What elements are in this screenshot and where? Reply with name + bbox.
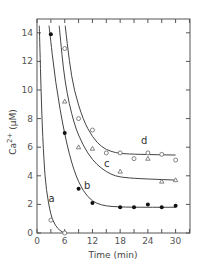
data-points [49,32,178,235]
data-point-c [90,146,94,150]
data-point-d [90,128,94,132]
calcium-time-chart: 061218243002468101214 abcd Time (min) Ca… [0,0,198,267]
y-tick-label: 6 [27,142,33,152]
svg-text:Ca2+(μM): Ca2+(μM) [6,109,18,155]
data-point-b [49,32,53,36]
x-tick-label: 30 [170,236,182,246]
curve-label-c: c [104,158,110,169]
data-point-c [118,169,122,173]
data-point-d [118,151,122,155]
y-tick-label: 4 [27,171,33,181]
data-point-b [174,204,178,208]
data-point-d [160,152,164,156]
y-axis-title: Ca2+(μM) [6,109,18,155]
curve-label-a: a [49,193,55,204]
data-point-a [63,231,67,235]
y-axis-title-unit: (μM) [8,109,18,130]
data-point-b [77,187,81,191]
data-point-d [174,158,178,162]
x-tick-label: 24 [142,236,154,246]
data-point-c [173,178,177,182]
x-tick-label: 6 [62,236,68,246]
data-point-c [146,156,150,160]
data-point-b [90,201,94,205]
data-point-d [63,47,67,51]
plot-frame [37,19,190,233]
y-tick-label: 0 [27,228,33,238]
curve-label-b: b [84,180,90,191]
data-point-b [146,202,150,206]
data-point-c [76,145,80,149]
data-point-d [77,117,81,121]
data-point-b [63,131,67,135]
y-tick-label: 8 [27,114,33,124]
fit-curve-d [65,26,175,155]
x-tick-label: 0 [34,236,40,246]
data-point-a [49,218,53,222]
data-point-c [63,99,67,103]
data-point-d [132,157,136,161]
y-axis-title-sup: 2+ [6,133,14,143]
data-point-b [118,205,122,209]
y-tick-label: 2 [27,199,33,209]
data-point-d [104,151,108,155]
plot-axes: 061218243002468101214 [22,19,190,246]
y-tick-label: 14 [22,28,34,38]
fit-curves [39,26,175,233]
curve-label-d: d [141,135,147,146]
x-tick-label: 18 [114,236,126,246]
fit-curve-c [59,26,175,180]
y-tick-label: 10 [22,85,34,95]
y-tick-label: 12 [22,56,33,66]
curve-labels: abcd [49,135,148,203]
x-axis-title: Time (min) [88,250,138,260]
data-point-b [160,205,164,209]
data-point-d [146,151,150,155]
y-axis-title-base: Ca [8,143,18,155]
data-point-b [132,205,136,209]
x-tick-label: 12 [87,236,98,246]
